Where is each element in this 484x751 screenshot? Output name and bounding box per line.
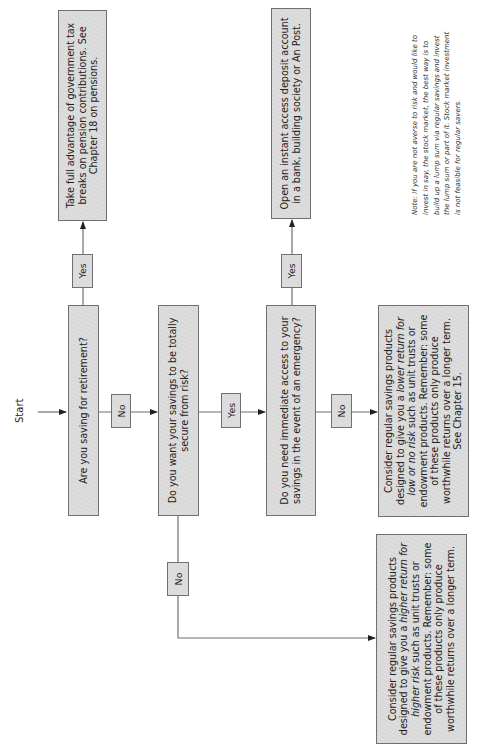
lower-return-text: Consider regular savings products design… bbox=[383, 310, 464, 512]
secure-yes-label: Yes bbox=[221, 393, 241, 428]
retirement-no-label: No bbox=[111, 394, 131, 428]
pension-advice-box: Take full advantage of government tax br… bbox=[58, 10, 107, 221]
secure-question-box: Do you want your savings to be totally s… bbox=[158, 305, 199, 516]
emergency-no-label: No bbox=[331, 394, 352, 428]
higher-return-text: Consider regular savings products design… bbox=[387, 539, 457, 739]
retirement-question-box: Are you saving for retirement? bbox=[68, 305, 99, 516]
retirement-yes-label: Yes bbox=[72, 254, 93, 288]
secure-no-label: No bbox=[167, 562, 189, 596]
emergency-yes-label: Yes bbox=[281, 254, 302, 288]
instant-access-advice-box: Open an instant access deposit account i… bbox=[271, 8, 311, 219]
flowchart-canvas: Start Take full advantage of government … bbox=[0, 0, 484, 751]
higher-return-advice-box: Consider regular savings products design… bbox=[376, 534, 467, 744]
risk-note: Note: If you are not averse to risk and … bbox=[410, 27, 468, 215]
lower-return-advice-box: Consider regular savings products design… bbox=[378, 305, 469, 517]
emergency-question-box: Do you need immediate access to your sav… bbox=[266, 305, 316, 516]
start-label: Start bbox=[14, 399, 25, 423]
